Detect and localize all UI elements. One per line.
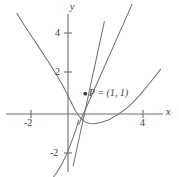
x-tick-label-4: 4 — [140, 117, 145, 128]
point-p-label: P = (1, 1) — [89, 88, 128, 98]
y-tick-label--2: -2 — [50, 147, 58, 158]
y-tick-label-2: 2 — [55, 66, 60, 77]
x-tick-label--2: -2 — [24, 117, 32, 128]
y-axis-label: y — [70, 1, 74, 12]
cubic-curve — [17, 14, 161, 124]
point-p-marker — [83, 92, 87, 96]
figure-canvas: x y -2 4 4 2 -2 P = (1, 1) — [0, 0, 179, 177]
secant-line — [79, 4, 132, 124]
y-tick-label-4: 4 — [55, 27, 60, 38]
x-axis-label: x — [166, 106, 170, 117]
